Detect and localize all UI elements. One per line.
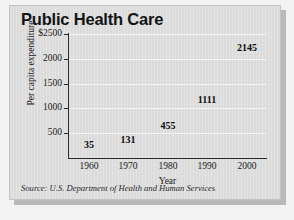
data-label-2000: 2145: [224, 42, 270, 53]
data-label-1970: 131: [105, 134, 151, 145]
data-label-1990: 1111: [184, 94, 230, 105]
y-tick-label-500: 500: [20, 127, 62, 137]
x-tick-label-1960: 1960: [69, 161, 109, 171]
y-tick-2500: [64, 34, 69, 35]
gridline-2500: [69, 34, 266, 35]
y-tick-label-2500-wrap: $2500: [18, 28, 62, 40]
gridline-1500: [69, 84, 266, 85]
figure-container: Public Health Care $2500 2000 1500 10: [0, 0, 294, 220]
chart-source-note: Source: U.S. Department of Health and Hu…: [21, 183, 215, 193]
y-tick-label-1000-wrap: 1000: [18, 102, 62, 114]
y-tick-500: [64, 133, 69, 134]
x-tick-label-1970: 1970: [108, 161, 148, 171]
data-label-1980: 455: [145, 120, 191, 131]
y-tick-1500: [64, 84, 69, 85]
y-tick-label-500-wrap: 500: [18, 127, 62, 139]
y-tick-1000: [64, 108, 69, 109]
y-tick-2000: [64, 59, 69, 60]
gridline-500: [69, 133, 266, 134]
x-tick-label-2000: 2000: [227, 161, 267, 171]
y-tick-label-1500-wrap: 1500: [18, 78, 62, 90]
gridline-2000: [69, 59, 266, 60]
x-tick-label-1980: 1980: [148, 161, 188, 171]
x-axis-line: [68, 158, 267, 159]
chart-panel: Public Health Care $2500 2000 1500 10: [9, 5, 281, 200]
gridline-1000: [69, 108, 266, 109]
y-axis-title: Per capita expenditure: [26, 11, 36, 115]
chart-title: Public Health Care: [21, 10, 163, 29]
y-tick-label-2000-wrap: 2000: [18, 53, 62, 65]
x-tick-label-1990: 1990: [187, 161, 227, 171]
